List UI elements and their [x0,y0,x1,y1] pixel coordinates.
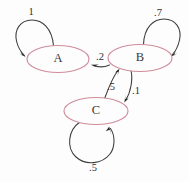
edge-b-to-a [91,65,110,68]
edge-c-to-b-arrowhead [115,69,120,77]
edge-b-to-c [124,71,132,103]
node-a-label: A [53,51,62,65]
node-a[interactable]: A [27,46,89,73]
node-c[interactable]: C [64,98,128,125]
edge-label-b-to-a: .2 [96,51,104,62]
edge-c-self-loop-path [70,122,114,163]
node-b[interactable]: B [108,45,172,72]
edge-c-self-loop-arrowhead [106,127,111,135]
edge-label-b-to-c: .1 [132,85,140,96]
edge-b-to-c-path [126,71,132,101]
state-transition-diagram: A B C 1 .7 .2 .5 .1 .5 [0,0,189,182]
edge-a-self-loop-arrowhead [19,51,26,57]
node-b-label: B [136,50,144,64]
node-c-label: C [92,103,100,117]
edge-label-b-self: .7 [154,7,162,18]
edge-c-self-loop [70,122,114,163]
edge-label-c-to-b: .5 [107,81,115,92]
edge-label-c-self: .5 [89,162,97,173]
diagram-canvas: A B C 1 .7 .2 .5 .1 .5 [0,0,189,182]
edge-label-a-self: 1 [28,6,33,17]
